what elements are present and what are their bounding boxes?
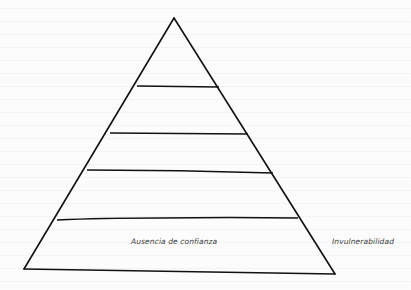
pyramid-base [24, 269, 335, 274]
level-divider-1 [137, 86, 219, 87]
page: Ausencia de confianza Invulnerabilidad [0, 0, 411, 290]
pyramid-left-edge [24, 18, 174, 269]
pyramid-right-edge [174, 18, 335, 274]
pyramid-diagram [0, 0, 411, 290]
base-level-label: Ausencia de confianza [131, 237, 217, 246]
base-side-label: Invulnerabilidad [332, 237, 394, 246]
level-divider-2 [110, 133, 248, 134]
level-divider-4 [57, 218, 298, 221]
level-divider-3 [87, 170, 273, 173]
